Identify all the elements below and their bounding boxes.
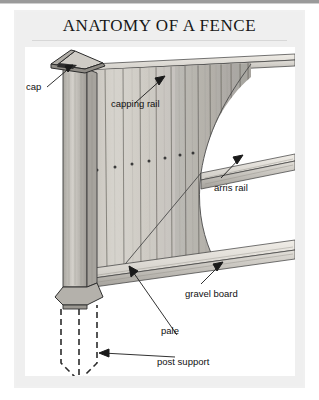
label-pale: pale [161,326,179,336]
label-arris-rail: arris rail [214,183,248,193]
title-divider [32,40,287,41]
label-cap: cap [26,82,41,92]
fence-drawing [25,47,295,376]
page-title: ANATOMY OF A FENCE [14,16,305,36]
label-gravel-board: gravel board [185,289,238,299]
label-post-support: post support [157,357,209,367]
top-rule-secondary [0,3,319,4]
page-root: ANATOMY OF A FENCE [0,0,319,400]
label-capping-rail: capping rail [111,99,160,109]
fence-diagram-svg [25,47,295,376]
illustration-plate [25,47,295,376]
